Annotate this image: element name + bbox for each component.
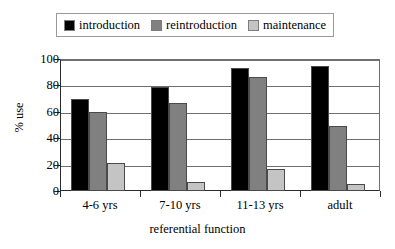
bar-group [300,59,380,191]
y-axis-tick-label: 80 [19,79,59,92]
x-axis-tick-label: 11-13 yrs [215,199,305,212]
bar-reintroduction-7-10-yrs [169,103,187,191]
y-axis-tick-label: 60 [19,106,59,119]
legend-swatch-reintroduction [151,20,162,31]
y-axis-tick-label: 40 [19,132,59,145]
legend-swatch-maintenance [248,20,259,31]
x-axis-tick [380,191,381,197]
legend-label-reintroduction: reintroduction [166,19,237,32]
x-axis-tick [140,191,141,197]
bar-group [220,59,300,191]
y-axis-tick-label: 20 [19,159,59,172]
chart-legend: introduction reintroduction maintenance [56,13,334,37]
legend-label-maintenance: maintenance [263,19,326,32]
bar-maintenance-7-10-yrs [187,182,205,191]
x-axis-tick-label: 7-10 yrs [135,199,225,212]
legend-label-introduction: introduction [79,19,140,32]
bar-introduction-adult [311,66,329,191]
bar-reintroduction-adult [329,126,347,191]
bar-maintenance-adult [347,184,365,191]
x-axis-label: referential function [0,222,395,237]
bar-group [140,59,220,191]
bar-reintroduction-4-6-yrs [89,112,107,191]
bar-group [60,59,140,191]
x-axis-tick-label: 4-6 yrs [55,199,145,212]
bar-reintroduction-11-13-yrs [249,77,267,191]
y-axis-tick-label: 100 [19,53,59,66]
x-axis-tick [300,191,301,197]
x-axis-tick [60,191,61,197]
legend-item-reintroduction: reintroduction [151,19,237,32]
legend-swatch-introduction [64,20,75,31]
bar-introduction-7-10-yrs [151,87,169,191]
y-axis-tick-label: 0 [19,185,59,198]
bar-maintenance-4-6-yrs [107,163,125,191]
x-axis-tick [220,191,221,197]
bar-introduction-4-6-yrs [71,99,89,191]
bar-introduction-11-13-yrs [231,68,249,191]
x-axis-tick-label: adult [295,199,385,212]
legend-item-introduction: introduction [64,19,140,32]
bar-maintenance-11-13-yrs [267,169,285,191]
bar-groups [60,59,380,191]
legend-item-maintenance: maintenance [248,19,326,32]
bar-chart-figure: introduction reintroduction maintenance … [0,0,395,249]
